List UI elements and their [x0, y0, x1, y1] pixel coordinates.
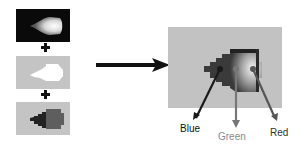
label-green: Green [218, 131, 246, 142]
blue-channel-arrow [196, 69, 220, 118]
label-red: Red [270, 127, 288, 138]
label-blue: Blue [180, 123, 200, 134]
composite-shape-icon [0, 0, 307, 146]
